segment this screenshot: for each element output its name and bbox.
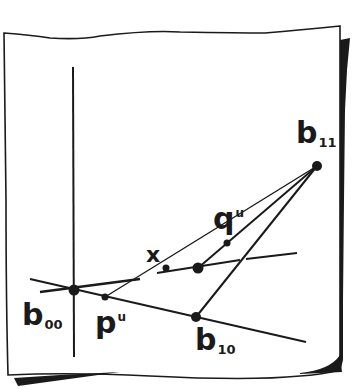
point-p-u — [102, 294, 109, 301]
label-b11-sub: 11 — [318, 135, 336, 150]
label-b10: b10 — [195, 325, 236, 355]
line-pu-b11 — [105, 166, 317, 297]
label-b00-main: b — [22, 297, 43, 332]
label-p-u-main: p — [95, 305, 116, 340]
label-b11-main: b — [296, 115, 317, 150]
sketch-canvas: b00 pu b10 b11 qu x — [0, 0, 358, 390]
label-x: x — [146, 244, 160, 266]
label-x-main: x — [146, 242, 160, 267]
label-b11: b11 — [296, 118, 337, 148]
line-b10-b11 — [196, 166, 317, 317]
vertical-axis — [73, 67, 74, 357]
label-p-u: pu — [95, 308, 126, 338]
point-x — [163, 265, 170, 272]
label-q-u-main: q — [213, 201, 234, 236]
line-center-right — [246, 253, 297, 259]
point-q-u — [224, 240, 231, 247]
point-b10 — [191, 312, 201, 322]
point-b11 — [312, 161, 322, 171]
label-b10-main: b — [195, 322, 216, 357]
label-b00: b00 — [22, 300, 63, 330]
point-b00 — [69, 285, 80, 296]
label-b10-sub: 10 — [217, 342, 235, 357]
label-p-u-sup: u — [117, 310, 126, 324]
point-center — [193, 263, 204, 274]
paper-shadow-right — [340, 38, 350, 372]
label-b00-sub: 00 — [44, 317, 62, 332]
label-q-u-sup: u — [235, 206, 244, 220]
label-q-u: qu — [213, 204, 244, 234]
